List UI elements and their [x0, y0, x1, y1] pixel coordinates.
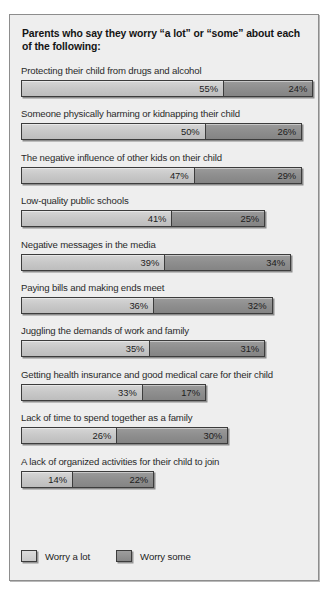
bar-value-worry-some: 29%	[277, 170, 301, 181]
bar-row-label: Someone physically harming or kidnapping…	[21, 108, 240, 119]
stacked-bar: 35%31%	[21, 340, 265, 357]
bar-segment-worry-some: 30%	[117, 428, 227, 443]
bar-value-worry-some: 24%	[289, 83, 313, 94]
bar-row-label: Juggling the demands of work and family	[21, 325, 189, 336]
bar-value-worry-a-lot: 55%	[199, 83, 223, 94]
bar-value-worry-some: 34%	[266, 257, 290, 268]
stacked-bar: 14%22%	[21, 471, 154, 488]
chart-panel: Parents who say they worry “a lot” or “s…	[9, 14, 319, 581]
bar-row: Paying bills and making ends meet36%32%	[10, 282, 318, 325]
bar-row: Negative messages in the media39%34%	[10, 239, 318, 282]
bar-segment-worry-a-lot: 41%	[22, 211, 172, 226]
bar-row-label: Protecting their child from drugs and al…	[21, 65, 201, 76]
bar-row: Juggling the demands of work and family3…	[10, 325, 318, 368]
stacked-bar: 39%34%	[21, 254, 291, 271]
bar-segment-worry-a-lot: 39%	[22, 255, 165, 270]
stacked-bar: 55%24%	[21, 80, 313, 97]
bar-segment-worry-a-lot: 50%	[22, 124, 206, 139]
bar-value-worry-a-lot: 36%	[129, 300, 153, 311]
bar-row: Lack of time to spend together as a fami…	[10, 412, 318, 455]
bar-value-worry-a-lot: 47%	[170, 170, 194, 181]
legend-item: Worry some	[116, 550, 191, 562]
bar-value-worry-a-lot: 41%	[148, 213, 172, 224]
stacked-bar: 41%25%	[21, 210, 265, 227]
legend-swatch-worry-some	[116, 550, 132, 562]
bar-value-worry-some: 22%	[129, 474, 153, 485]
bar-segment-worry-a-lot: 55%	[22, 81, 224, 96]
bar-row-label: Negative messages in the media	[21, 239, 156, 250]
stacked-bar: 33%17%	[21, 384, 206, 401]
bar-segment-worry-some: 32%	[154, 298, 271, 313]
bar-segment-worry-some: 24%	[224, 81, 312, 96]
bar-segment-worry-some: 25%	[172, 211, 264, 226]
stacked-bar: 47%29%	[21, 167, 302, 184]
bar-row-label: Paying bills and making ends meet	[21, 282, 164, 293]
bar-value-worry-some: 26%	[277, 126, 301, 137]
bar-value-worry-a-lot: 33%	[118, 387, 142, 398]
bar-row-label: The negative influence of other kids on …	[21, 152, 222, 163]
bar-segment-worry-a-lot: 26%	[22, 428, 117, 443]
bar-value-worry-a-lot: 35%	[126, 343, 150, 354]
legend-label: Worry some	[140, 551, 191, 562]
bar-value-worry-some: 31%	[240, 343, 264, 354]
legend-label: Worry a lot	[45, 551, 90, 562]
bar-segment-worry-some: 22%	[73, 472, 153, 487]
bar-row: Someone physically harming or kidnapping…	[10, 108, 318, 151]
bar-segment-worry-a-lot: 36%	[22, 298, 154, 313]
bar-segment-worry-some: 34%	[165, 255, 290, 270]
bar-row-label: Getting health insurance and good medica…	[21, 369, 273, 380]
bar-value-worry-some: 17%	[181, 387, 205, 398]
bar-value-worry-a-lot: 50%	[181, 126, 205, 137]
chart-legend: Worry a lotWorry some	[21, 550, 217, 562]
bar-segment-worry-a-lot: 14%	[22, 472, 73, 487]
bar-segment-worry-some: 31%	[150, 341, 264, 356]
bar-value-worry-some: 30%	[203, 430, 227, 441]
bar-segment-worry-some: 26%	[206, 124, 302, 139]
bar-segment-worry-some: 29%	[195, 168, 302, 183]
bar-segment-worry-a-lot: 47%	[22, 168, 195, 183]
bar-row: Low-quality public schools41%25%	[10, 195, 318, 238]
bar-row: Getting health insurance and good medica…	[10, 369, 318, 412]
bar-row: The negative influence of other kids on …	[10, 152, 318, 195]
bar-value-worry-some: 32%	[248, 300, 272, 311]
bar-row-label: A lack of organized activities for their…	[21, 456, 219, 467]
bar-value-worry-a-lot: 39%	[140, 257, 164, 268]
bar-chart-rows: Protecting their child from drugs and al…	[10, 65, 318, 499]
bar-value-worry-a-lot: 14%	[48, 474, 72, 485]
bar-value-worry-a-lot: 26%	[93, 430, 117, 441]
bar-row: Protecting their child from drugs and al…	[10, 65, 318, 108]
bar-value-worry-some: 25%	[240, 213, 264, 224]
bar-segment-worry-a-lot: 33%	[22, 385, 143, 400]
bar-row-label: Low-quality public schools	[21, 195, 129, 206]
bar-segment-worry-some: 17%	[143, 385, 205, 400]
page-title: Parents who say they worry “a lot” or “s…	[22, 27, 305, 54]
bar-segment-worry-a-lot: 35%	[22, 341, 150, 356]
bar-row: A lack of organized activities for their…	[10, 456, 318, 499]
legend-swatch-worry-a-lot	[21, 550, 37, 562]
bar-row-label: Lack of time to spend together as a fami…	[21, 412, 192, 423]
stacked-bar: 36%32%	[21, 297, 273, 314]
legend-item: Worry a lot	[21, 550, 90, 562]
stacked-bar: 50%26%	[21, 123, 302, 140]
stacked-bar: 26%30%	[21, 427, 228, 444]
